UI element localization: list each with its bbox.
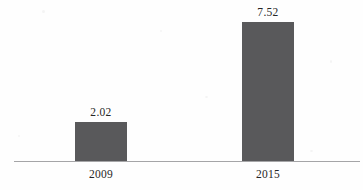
x-axis-tick-label-2009: 2009	[56, 168, 146, 181]
scan-speckle	[205, 96, 208, 98]
scan-speckle	[310, 150, 313, 152]
bar-2009[interactable]	[75, 122, 127, 162]
scan-speckle	[160, 30, 162, 32]
bar-value-label-2015: 7.52	[223, 6, 313, 18]
scan-speckle	[42, 10, 45, 13]
bar-chart: 2.02 7.52 2009 2015	[0, 0, 363, 190]
plot-area: 2.02 7.52 2009 2015	[0, 0, 363, 190]
x-axis-line	[14, 161, 360, 162]
bar-value-label-2009: 2.02	[56, 106, 146, 118]
scan-speckle	[330, 60, 332, 63]
x-axis-tick-label-2015: 2015	[223, 168, 313, 181]
scan-speckle	[18, 135, 20, 137]
bar-2015[interactable]	[242, 22, 294, 162]
